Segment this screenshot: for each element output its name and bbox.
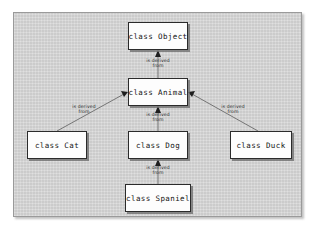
- edge-label-cat-to-animal: is derived from: [62, 104, 106, 115]
- class-node-animal[interactable]: class Animal: [128, 78, 188, 106]
- class-node-label: class Duck: [236, 141, 285, 150]
- edge-label-line2: from: [62, 109, 106, 114]
- edge-label-dog-to-animal: is derived from: [131, 112, 185, 123]
- class-node-label: class Spaniel: [126, 194, 190, 203]
- class-node-dog[interactable]: class Dog: [128, 131, 188, 159]
- edge-label-line2: from: [131, 117, 185, 122]
- class-node-label: class Dog: [136, 141, 180, 150]
- class-node-spaniel[interactable]: class Spaniel: [125, 184, 191, 212]
- edge-label-line2: from: [211, 109, 255, 114]
- edge-label-spaniel-to-dog: is derived from: [131, 165, 185, 176]
- class-node-label: class Animal: [129, 88, 188, 97]
- class-node-object[interactable]: class Object: [128, 22, 188, 50]
- class-node-label: class Object: [129, 32, 188, 41]
- edge-label-animal-to-object: is derived from: [131, 58, 185, 69]
- edge-label-duck-to-animal: is derived from: [211, 104, 255, 115]
- edge-label-line2: from: [131, 170, 185, 175]
- class-node-duck[interactable]: class Duck: [230, 131, 292, 159]
- edge-label-line2: from: [131, 63, 185, 68]
- diagram-canvas: class Object class Animal class Cat clas…: [0, 0, 316, 234]
- class-node-label: class Cat: [35, 141, 79, 150]
- class-node-cat[interactable]: class Cat: [27, 131, 87, 159]
